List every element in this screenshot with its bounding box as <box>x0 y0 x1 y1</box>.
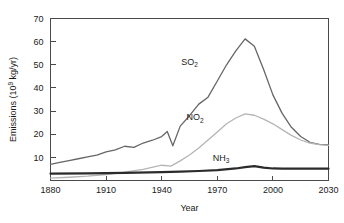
series-line-nh3 <box>51 166 329 173</box>
series-label-nh3: NH3 <box>213 153 230 164</box>
y-tick-label-60: 60 <box>33 37 43 47</box>
series-label-text: NO <box>186 112 200 122</box>
y-axis-title-main: Emissions (10 <box>8 86 18 143</box>
chart-figure: 10203040506070188019101940197020002030 S… <box>0 0 344 223</box>
series-label-no2: NO2 <box>186 112 204 123</box>
y-tick-label-30: 30 <box>33 106 43 116</box>
series-label-so2: SO2 <box>181 57 198 68</box>
y-tick-label-40: 40 <box>33 83 43 93</box>
x-tick-label-1880: 1880 <box>40 185 60 195</box>
y-axis-title: Emissions (109 kg/yr) <box>7 57 18 142</box>
x-axis-title: Year <box>180 203 198 213</box>
series-label-text: SO <box>181 57 194 67</box>
y-tick-label-70: 70 <box>33 14 43 24</box>
y-tick-label-20: 20 <box>33 129 43 139</box>
x-tick-label-2030: 2030 <box>318 185 338 195</box>
emissions-line-chart: 10203040506070188019101940197020002030 S… <box>0 0 344 223</box>
x-tick-label-1970: 1970 <box>207 185 227 195</box>
x-tick-label-1940: 1940 <box>152 185 172 195</box>
series-label-subscript: 2 <box>194 61 198 68</box>
x-tick-label-2000: 2000 <box>263 185 283 195</box>
series-label-text: NH <box>213 153 226 163</box>
chart-axes: 10203040506070188019101940197020002030 <box>33 14 338 195</box>
y-tick-label-50: 50 <box>33 60 43 70</box>
y-axis-title-tail: kg/yr) <box>8 57 18 82</box>
series-label-subscript: 3 <box>226 157 230 164</box>
y-tick-label-10: 10 <box>33 153 43 163</box>
series-label-subscript: 2 <box>200 117 204 124</box>
x-tick-label-1910: 1910 <box>96 185 116 195</box>
